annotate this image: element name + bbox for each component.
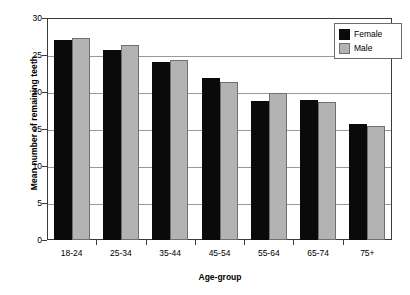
bar-male-18-24: [72, 38, 90, 240]
category-separator: [195, 240, 196, 245]
bar-female-55-64: [251, 101, 269, 240]
bar-group: [202, 18, 238, 240]
x-axis-tick-labels: 18-2425-3435-4445-5455-6465-7475+: [47, 248, 392, 264]
legend: FemaleMale: [334, 23, 402, 59]
legend-swatch-female: [339, 29, 350, 40]
x-axis-title: Age-group: [55, 272, 385, 282]
y-tick-label: 20: [18, 87, 42, 97]
bar-male-75+: [367, 126, 385, 240]
bar-female-45-54: [202, 78, 220, 240]
x-tick-label: 25-34: [110, 248, 132, 258]
bar-group: [54, 18, 90, 240]
bar-group: [103, 18, 139, 240]
x-tick-label: 35-44: [159, 248, 181, 258]
category-separator: [96, 240, 97, 245]
bar-group: [251, 18, 287, 240]
legend-item-female: Female: [339, 27, 398, 41]
category-separator: [244, 240, 245, 245]
x-tick-label: 75+: [360, 248, 374, 258]
bar-group: [300, 18, 336, 240]
category-separator: [293, 240, 294, 245]
x-tick-label: 65-74: [307, 248, 329, 258]
bar-male-25-34: [121, 45, 139, 240]
legend-label: Female: [354, 29, 382, 39]
y-tick-label: 30: [18, 13, 42, 23]
bar-female-75+: [349, 124, 367, 240]
bar-chart: Mean number of remaining teeth 051015202…: [0, 0, 410, 295]
category-separator: [343, 240, 344, 245]
bar-female-18-24: [54, 40, 72, 240]
y-axis-tick-labels: 051015202530: [14, 18, 42, 240]
y-tick-label: 10: [18, 161, 42, 171]
bar-female-35-44: [152, 62, 170, 240]
legend-swatch-male: [339, 43, 350, 54]
bar-female-65-74: [300, 100, 318, 240]
x-tick-label: 55-64: [258, 248, 280, 258]
y-tick-label: 0: [18, 235, 42, 245]
category-separator: [146, 240, 147, 245]
y-tick-label: 25: [18, 50, 42, 60]
legend-item-male: Male: [339, 41, 398, 55]
y-tick-label: 5: [18, 198, 42, 208]
x-tick-label: 18-24: [61, 248, 83, 258]
bar-male-45-54: [220, 82, 238, 240]
bar-male-55-64: [269, 93, 287, 240]
x-tick-label: 45-54: [209, 248, 231, 258]
bar-group: [152, 18, 188, 240]
legend-label: Male: [354, 43, 372, 53]
bar-male-65-74: [318, 102, 336, 240]
category-separators: [47, 240, 392, 245]
bar-male-35-44: [170, 60, 188, 240]
bar-female-25-34: [103, 50, 121, 240]
y-tick-label: 15: [18, 124, 42, 134]
